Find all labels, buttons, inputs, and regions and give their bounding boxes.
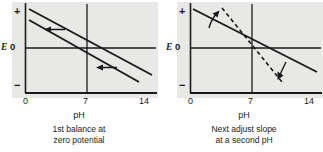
potential-zero-value: 0 [175, 41, 180, 52]
offset-shift-arrow-lower-icon [96, 65, 117, 71]
plot-graphics-left [0, 0, 158, 110]
y-axis-zero-label: E 0 [166, 42, 180, 53]
electrode-response-balanced-line [193, 9, 317, 72]
panel-caption-left: 1st balance at zero potential [0, 124, 158, 146]
x-axis-tick-14: 14 [139, 97, 149, 106]
ph-calibration-figure: + − E 0 0 7 14 pH 1st balance at zero po… [0, 0, 323, 152]
caption-line-1: 1st balance at [0, 124, 158, 135]
caption-line-1: Next adjust slope [165, 124, 323, 135]
potential-symbol: E [166, 42, 172, 52]
panel-first-balance: + − E 0 0 7 14 pH 1st balance at zero po… [0, 0, 158, 152]
x-axis-title: pH [165, 110, 323, 120]
plot-graphics-right [165, 0, 323, 110]
x-axis-tick-0: 0 [188, 97, 193, 106]
slope-adjust-arrow-lower-icon [278, 62, 287, 80]
x-axis-tick-7: 7 [248, 97, 253, 106]
x-axis-tick-14: 14 [304, 97, 314, 106]
electrode-response-initial-line [29, 9, 152, 75]
y-axis-positive-label: + [179, 6, 185, 17]
potential-symbol: E [1, 42, 7, 52]
x-axis-tick-0: 0 [23, 97, 28, 106]
panel-caption-right: Next adjust slope at a second pH [165, 124, 323, 146]
x-axis-title: pH [0, 110, 158, 120]
y-axis-zero-label: E 0 [1, 42, 15, 53]
y-axis-positive-label: + [14, 6, 20, 17]
potential-zero-value: 0 [10, 41, 15, 52]
y-axis-negative-label: − [179, 80, 185, 91]
y-axis-negative-label: − [14, 80, 20, 91]
panel-slope-adjust: + − E 0 0 7 14 pH Next adjust slope at a… [165, 0, 323, 152]
x-axis-tick-7: 7 [83, 97, 88, 106]
caption-line-2: at a second pH [165, 135, 323, 146]
caption-line-2: zero potential [0, 135, 158, 146]
